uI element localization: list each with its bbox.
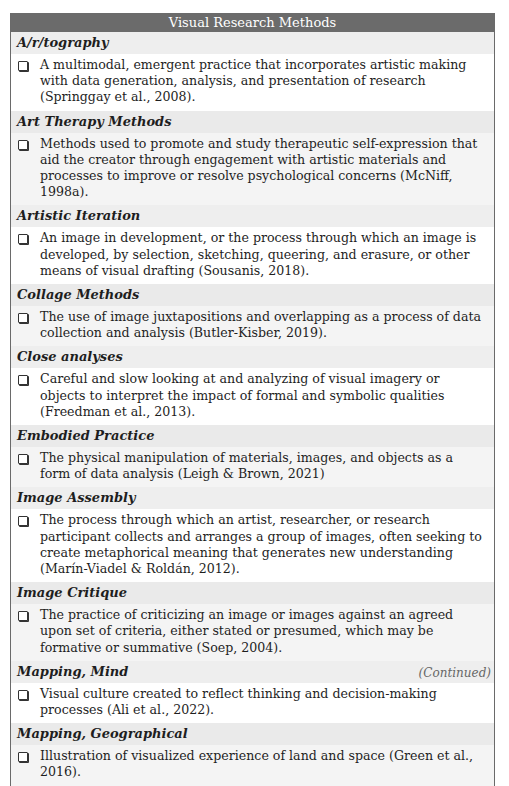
section-art-therapy-methods: Art Therapy Methods Methods used to prom… bbox=[11, 111, 494, 206]
section-heading: Image Critique bbox=[11, 582, 494, 604]
entry-text: Careful and slow looking at and analyzin… bbox=[40, 371, 486, 420]
section-artography: A/r/tography A multimodal, emergent prac… bbox=[11, 32, 494, 111]
section-heading: Artistic Iteration bbox=[11, 205, 494, 227]
checkbox-bullet-icon bbox=[18, 454, 28, 464]
section-close-analyses: Close analyses Careful and slow looking … bbox=[11, 346, 494, 425]
entry-text: Methods used to promote and study therap… bbox=[40, 136, 486, 201]
list-item: An image in development, or the process … bbox=[11, 227, 494, 284]
checkbox-bullet-icon bbox=[18, 752, 28, 762]
section-image-assembly: Image Assembly The process through which… bbox=[11, 487, 494, 582]
checkbox-bullet-icon bbox=[18, 375, 28, 385]
section-image-critique: Image Critique The practice of criticizi… bbox=[11, 582, 494, 661]
list-item: Careful and slow looking at and analyzin… bbox=[11, 368, 494, 425]
checkbox-bullet-icon bbox=[18, 313, 28, 323]
list-item: Visual culture created to reflect thinki… bbox=[11, 683, 494, 723]
section-collage-methods: Collage Methods The use of image juxtapo… bbox=[11, 284, 494, 346]
checkbox-bullet-icon bbox=[18, 516, 28, 526]
entry-text: A multimodal, emergent practice that inc… bbox=[40, 57, 486, 106]
entry-text: The process through which an artist, res… bbox=[40, 512, 486, 577]
section-heading: Mapping, Geographical bbox=[11, 723, 494, 745]
continued-label: (Continued) bbox=[419, 666, 491, 680]
section-heading: Art Therapy Methods bbox=[11, 111, 494, 133]
table-title: Visual Research Methods bbox=[11, 13, 494, 32]
section-heading: A/r/tography bbox=[11, 32, 494, 54]
list-item: Illustration of visualized experience of… bbox=[11, 745, 494, 785]
entry-text: The physical manipulation of materials, … bbox=[40, 450, 486, 482]
entry-text: Illustration of visualized experience of… bbox=[40, 748, 486, 780]
checkbox-bullet-icon bbox=[18, 61, 28, 71]
checkbox-bullet-icon bbox=[18, 690, 28, 700]
list-item: The use of image juxtapositions and over… bbox=[11, 306, 494, 346]
list-item: The practice of criticizing an image or … bbox=[11, 604, 494, 661]
entry-text: Visual culture created to reflect thinki… bbox=[40, 686, 486, 718]
checkbox-bullet-icon bbox=[18, 611, 28, 621]
checkbox-bullet-icon bbox=[18, 234, 28, 244]
list-item: Methods used to promote and study therap… bbox=[11, 133, 494, 206]
section-heading: Collage Methods bbox=[11, 284, 494, 306]
entry-text: The practice of criticizing an image or … bbox=[40, 607, 486, 656]
section-heading: Image Assembly bbox=[11, 487, 494, 509]
section-mapping-geographical: Mapping, Geographical Illustration of vi… bbox=[11, 723, 494, 785]
checkbox-bullet-icon bbox=[18, 140, 28, 150]
section-artistic-iteration: Artistic Iteration An image in developme… bbox=[11, 205, 494, 284]
entry-text: An image in development, or the process … bbox=[40, 230, 486, 279]
section-heading: Close analyses bbox=[11, 346, 494, 368]
list-item: The process through which an artist, res… bbox=[11, 509, 494, 582]
entry-text: The use of image juxtapositions and over… bbox=[40, 309, 486, 341]
section-heading: Embodied Practice bbox=[11, 425, 494, 447]
list-item: The physical manipulation of materials, … bbox=[11, 447, 494, 487]
section-embodied-practice: Embodied Practice The physical manipulat… bbox=[11, 425, 494, 487]
list-item: A multimodal, emergent practice that inc… bbox=[11, 54, 494, 111]
